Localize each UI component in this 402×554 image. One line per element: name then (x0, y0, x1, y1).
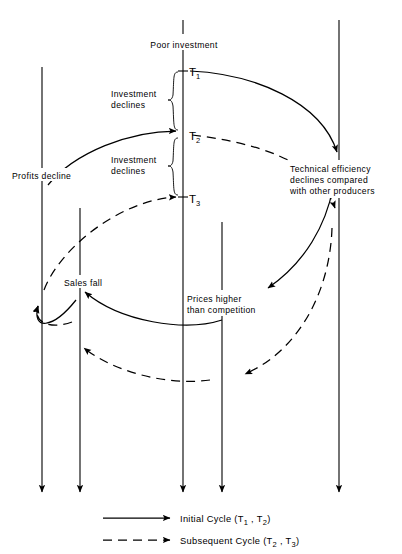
legend-item-initial-cycle: Initial Cycle (T1 , T2) (180, 514, 271, 527)
diagram-canvas: Poor investment Profits decline Sales fa… (0, 0, 402, 554)
label-technical-efficiency-line1: Technical efficiency (290, 164, 371, 174)
label-investment-declines-upper-line2: declines (111, 100, 145, 110)
label-prices-higher-line1: Prices higher (187, 294, 242, 304)
time-mark-t1: T1 (189, 66, 200, 81)
curve-t1-to-technical (190, 71, 337, 152)
timeline-axes (42, 20, 339, 492)
time-mark-t3: T3 (189, 193, 200, 208)
label-technical-efficiency-line2: declines compared (290, 175, 368, 185)
curve-technical-to-prices (268, 188, 333, 288)
legend: Initial Cycle (T1 , T2) Subsequent Cycle… (103, 514, 299, 549)
label-poor-investment: Poor investment (150, 40, 218, 50)
time-mark-t2: T2 (189, 130, 200, 145)
cycle-diagram: Poor investment Profits decline Sales fa… (0, 0, 402, 554)
label-investment-declines-lower-line2: declines (111, 166, 145, 176)
node-labels: Poor investment Profits decline Sales fa… (12, 40, 375, 315)
label-investment-declines-upper-line1: Investment (111, 89, 157, 99)
label-technical-efficiency-line3: with other producers (289, 186, 375, 196)
brace-lower (168, 138, 178, 195)
time-mark-labels: T1 T2 T3 (189, 66, 200, 208)
curve-sales-to-profits (37, 300, 76, 323)
legend-item-subsequent-cycle: Subsequent Cycle (T2 , T3) (180, 536, 299, 549)
curve-prices-to-sales-dashed (84, 348, 210, 381)
label-profits-decline: Profits decline (12, 171, 71, 181)
label-investment-declines-lower-line1: Investment (111, 155, 157, 165)
label-sales-fall: Sales fall (64, 278, 102, 288)
label-prices-higher-line2: than competition (187, 305, 256, 315)
